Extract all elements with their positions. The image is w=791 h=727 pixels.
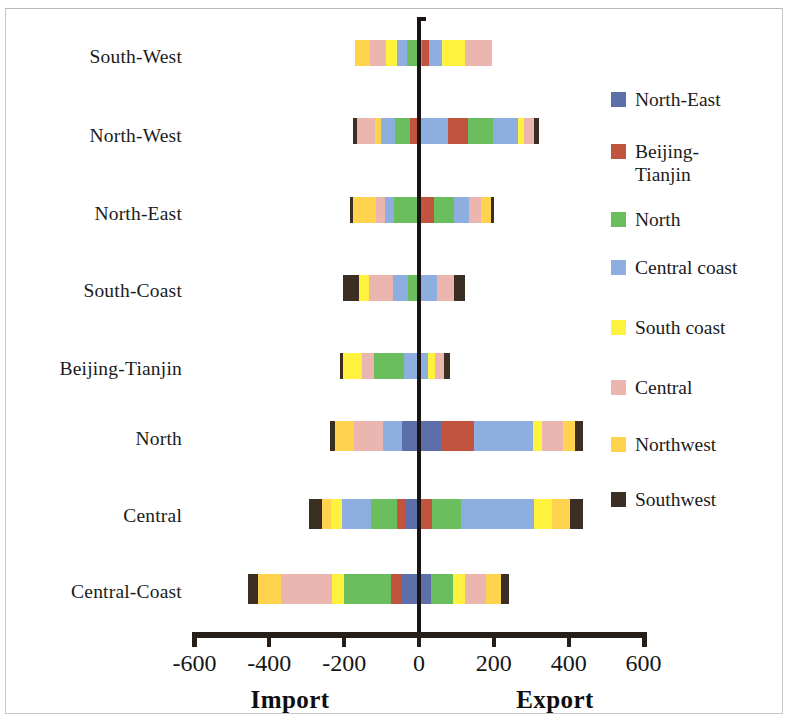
bar-segment-export <box>491 197 494 223</box>
bar-segment-import <box>391 574 401 604</box>
bar-segment-export <box>432 499 461 529</box>
bar-segment-import <box>343 353 362 379</box>
legend-swatch-icon <box>611 320 626 335</box>
bar-segment-import <box>397 40 407 66</box>
bar-segment-import <box>343 275 359 301</box>
bar-segment-export <box>435 353 444 379</box>
bar-segment-import <box>353 197 376 223</box>
legend-swatch-icon <box>611 260 626 275</box>
x-axis-tick <box>492 638 496 647</box>
bar-segment-import <box>362 353 374 379</box>
bar-segment-import <box>340 353 343 379</box>
bar-segment-import <box>369 275 393 301</box>
bar-segment-export <box>454 275 465 301</box>
legend-swatch-icon <box>611 92 626 107</box>
legend-swatch-icon <box>611 492 626 507</box>
legend-swatch-icon <box>611 380 626 395</box>
bar-segment-import <box>395 118 410 144</box>
bar-segment-export <box>441 421 474 451</box>
bar-segment-export <box>437 275 454 301</box>
axis-title-export: Export <box>455 686 655 714</box>
bar-segment-export <box>534 499 552 529</box>
bar-segment-import <box>354 421 383 451</box>
bar-segment-import <box>383 421 402 451</box>
legend-label: Beijing- Tianjin <box>635 140 699 186</box>
bar-segment-import <box>370 40 386 66</box>
bar-segment-export <box>431 574 453 604</box>
bar-row <box>0 574 791 604</box>
bar-segment-export <box>486 574 501 604</box>
legend-swatch-icon <box>611 144 626 159</box>
bar-segment-import <box>331 499 342 529</box>
bar-segment-export <box>419 118 448 144</box>
chart-page: South-WestNorth-WestNorth-EastSouth-Coas… <box>0 0 791 727</box>
x-axis-tick <box>417 638 421 647</box>
bar-segment-export <box>428 353 435 379</box>
bar-segment-import <box>393 275 408 301</box>
bar-segment-import <box>342 499 371 529</box>
bar-segment-export <box>481 197 491 223</box>
bar-segment-export <box>461 499 534 529</box>
bar-segment-export <box>575 421 583 451</box>
bar-segment-export <box>542 421 563 451</box>
bar-segment-export <box>454 197 469 223</box>
bar-segment-export <box>570 499 583 529</box>
bar-segment-export <box>465 40 492 66</box>
legend-label: South coast <box>635 316 725 339</box>
bar-row <box>0 40 791 66</box>
bar-segment-import <box>322 499 331 529</box>
bar-segment-export <box>419 197 434 223</box>
bar-segment-export <box>453 574 465 604</box>
zero-axis-line <box>417 17 421 637</box>
bar-segment-import <box>355 40 370 66</box>
bar-segment-import <box>309 499 322 529</box>
bar-segment-export <box>434 197 454 223</box>
legend-item[interactable]: Central coast <box>611 256 737 279</box>
bar-segment-import <box>374 353 404 379</box>
bar-segment-export <box>552 499 570 529</box>
bar-segment-import <box>385 197 394 223</box>
legend-item[interactable]: North-East <box>611 88 721 111</box>
bar-segment-import <box>353 118 357 144</box>
legend-label: Central <box>635 376 692 399</box>
plot-area: South-WestNorth-WestNorth-EastSouth-Coas… <box>0 0 791 727</box>
bar-segment-export <box>469 197 481 223</box>
bar-segment-import <box>357 118 375 144</box>
axis-title-import: Import <box>190 686 390 714</box>
bar-segment-export <box>419 275 437 301</box>
bar-segment-export <box>474 421 533 451</box>
bar-segment-export <box>524 118 534 144</box>
bar-segment-export <box>493 118 518 144</box>
x-axis-tick <box>192 632 197 647</box>
legend-item[interactable]: Northwest <box>611 433 716 456</box>
bar-segment-import <box>258 574 281 604</box>
bar-segment-import <box>350 197 353 223</box>
bar-segment-export <box>442 40 465 66</box>
bar-segment-export <box>468 118 493 144</box>
bar-segment-import <box>248 574 258 604</box>
x-axis-tick <box>567 638 571 647</box>
bar-segment-import <box>281 574 332 604</box>
bar-segment-import <box>359 275 369 301</box>
legend-item[interactable]: South coast <box>611 316 725 339</box>
bar-segment-export <box>419 421 441 451</box>
bar-segment-import <box>344 574 391 604</box>
bar-segment-export <box>429 40 442 66</box>
x-axis-tick <box>267 638 271 647</box>
bar-segment-import <box>394 197 419 223</box>
legend-label: Southwest <box>635 488 716 511</box>
bar-segment-import <box>386 40 396 66</box>
legend-item[interactable]: Beijing- Tianjin <box>611 140 699 186</box>
legend-item[interactable]: Central <box>611 376 692 399</box>
bar-segment-export <box>448 118 468 144</box>
legend-item[interactable]: North <box>611 208 681 231</box>
x-axis-tick <box>342 638 346 647</box>
legend-item[interactable]: Southwest <box>611 488 716 511</box>
bar-segment-export <box>563 421 575 451</box>
bar-segment-import <box>332 574 344 604</box>
legend-label: North-East <box>635 88 721 111</box>
legend-swatch-icon <box>611 437 626 452</box>
bar-segment-export <box>534 118 539 144</box>
bar-segment-export <box>422 40 429 66</box>
bar-segment-export <box>501 574 509 604</box>
